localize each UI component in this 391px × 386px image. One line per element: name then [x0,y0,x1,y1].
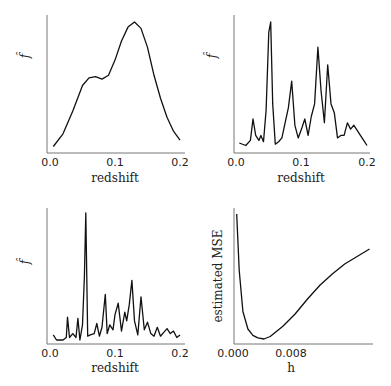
xtick: 0.1 [292,156,310,169]
x-axis-label: h [287,361,295,375]
xtick: 0.0 [41,347,59,360]
panel-bottom-right: 0.000 0.008 h estimated MSE [211,208,373,375]
xtick: 0.0 [227,156,245,169]
panel-top-right: 0.0 0.1 0.2 redshift f̂ [203,15,375,185]
xtick: 0.1 [106,347,124,360]
panel-bottom-left: 0.0 0.1 0.2 redshift f̂ [16,208,188,375]
x-axis-label: redshift [91,171,139,185]
y-axis-label: f̂ [16,257,32,265]
figure: 0.0 0.1 0.2 redshift f̂ 0.0 0.1 0.2 reds… [0,0,391,386]
xtick: 0.0 [41,156,59,169]
xtick: 0.1 [106,156,124,169]
y-axis-label: f̂ [203,51,219,59]
x-axis-label: redshift [91,361,139,375]
x-axis-label: redshift [277,171,325,185]
density-curve [239,22,367,146]
axes [234,208,373,344]
xtick: 0.2 [171,347,189,360]
mse-curve [237,214,370,339]
density-curve [53,213,180,340]
y-axis-label: f̂ [16,51,32,59]
xtick: 0.2 [358,156,376,169]
xtick: 0.008 [275,347,307,360]
density-curve [53,22,180,147]
y-axis-label: estimated MSE [211,229,225,322]
xtick: 0.2 [171,156,189,169]
axes [47,15,185,153]
axes [234,15,370,153]
xtick: 0.000 [217,347,249,360]
panel-top-left: 0.0 0.1 0.2 redshift f̂ [16,15,188,185]
